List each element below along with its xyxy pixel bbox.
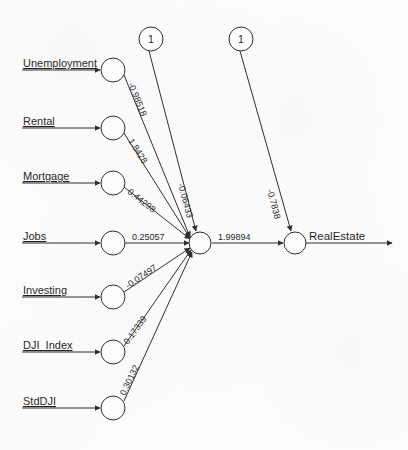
input-label-rental: Rental xyxy=(23,115,55,127)
weight-hidden-output: 1.99894 xyxy=(218,232,251,242)
node-stddji[interactable] xyxy=(101,396,125,420)
weight-bias-hidden: -0.06433 xyxy=(176,182,195,219)
weight-mortgage: 0.44298 xyxy=(126,187,158,215)
node-dji-index[interactable] xyxy=(101,340,125,364)
node-realestate-output[interactable] xyxy=(284,232,306,254)
node-hidden-unit[interactable] xyxy=(189,232,211,254)
weight-rental: 1.8428 xyxy=(126,137,149,166)
node-unemployment[interactable] xyxy=(101,58,125,82)
bias-hidden-label: 1 xyxy=(148,33,154,45)
input-label-dji-index: DJI_Index xyxy=(23,339,73,351)
weight-unemployment: -0.98518 xyxy=(126,81,149,118)
node-jobs[interactable] xyxy=(101,231,125,255)
network-diagram: 1 1 Unemployment Rental Mortgage Jobs In… xyxy=(0,0,408,450)
input-nodes xyxy=(101,58,125,420)
weight-stddji: 0.30132 xyxy=(118,363,141,397)
node-investing[interactable] xyxy=(101,285,125,309)
weight-dji-index: 0.17339 xyxy=(122,314,149,346)
weight-jobs: 0.25057 xyxy=(132,232,165,242)
bias-output-label: 1 xyxy=(238,33,244,45)
input-labels: Unemployment Rental Mortgage Jobs Invest… xyxy=(23,57,97,407)
node-mortgage[interactable] xyxy=(101,171,125,195)
input-label-investing: Investing xyxy=(23,284,67,296)
input-label-mortgage: Mortgage xyxy=(23,170,69,182)
input-label-jobs: Jobs xyxy=(23,230,47,242)
path-diagram-canvas: 1 1 Unemployment Rental Mortgage Jobs In… xyxy=(0,0,408,450)
input-label-stddji: StdDJI xyxy=(23,395,56,407)
node-rental[interactable] xyxy=(101,116,125,140)
weight-investing: -0.07497 xyxy=(124,262,159,290)
input-label-unemployment: Unemployment xyxy=(23,57,97,69)
output-label-realestate: RealEstate xyxy=(309,230,365,242)
edge-bias-output xyxy=(240,51,291,231)
